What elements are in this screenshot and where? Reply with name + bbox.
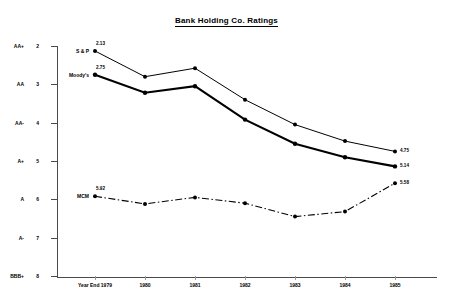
series-start-value-label: 5.92 (96, 186, 105, 191)
x-tick-mark (195, 276, 196, 280)
y-axis-grade-label: A (20, 196, 24, 202)
series-end-value-label: 5.58 (400, 180, 409, 185)
x-tick-mark (95, 276, 96, 280)
chart-container: Bank Holding Co. Ratings AA+2AA3AA-4A+5A… (0, 0, 453, 301)
x-tick-mark (395, 276, 396, 280)
data-point-marker (393, 181, 397, 185)
data-point-marker (293, 123, 297, 127)
x-tick-mark (245, 276, 246, 280)
y-axis-grade-label: AA+ (14, 43, 24, 49)
x-axis-label: Year End 1979 (78, 282, 112, 288)
x-axis-label: 1983 (289, 282, 300, 288)
y-axis-number-label: 5 (36, 158, 39, 164)
data-point-marker (243, 117, 247, 121)
data-point-marker (343, 210, 347, 214)
y-axis-grade-label: AA- (15, 120, 24, 126)
data-point-marker (143, 202, 147, 206)
data-point-marker (143, 75, 147, 79)
y-axis-number-label: 2 (36, 43, 39, 49)
x-axis-label: 1980 (139, 282, 150, 288)
x-tick-mark (145, 276, 146, 280)
data-point-marker (293, 215, 297, 219)
x-axis-label: 1982 (239, 282, 250, 288)
y-axis-grade-label: A- (19, 235, 24, 241)
data-point-marker (343, 155, 347, 159)
data-point-marker (93, 49, 97, 53)
y-tick-mark (51, 276, 57, 277)
data-point-marker (193, 84, 197, 88)
series-end-value-label: 4.75 (400, 148, 409, 153)
series-end-value-label: 5.14 (400, 163, 409, 168)
series-name-label: S & P (76, 48, 89, 54)
series-line (95, 183, 395, 216)
data-point-marker (93, 194, 97, 198)
y-axis-number-label: 3 (36, 81, 39, 87)
x-tick-mark (345, 276, 346, 280)
data-point-marker (243, 201, 247, 205)
data-point-marker (293, 142, 297, 146)
data-point-marker (393, 164, 397, 168)
series-lines (57, 46, 435, 276)
y-axis-number-label: 6 (36, 196, 39, 202)
data-point-marker (93, 73, 97, 77)
data-point-marker (143, 91, 147, 95)
data-point-marker (343, 139, 347, 143)
series-name-label: MCM (77, 193, 89, 199)
series-name-label: Moody's (69, 72, 89, 78)
y-axis-grade-label: A+ (17, 158, 24, 164)
x-axis-label: 1981 (189, 282, 200, 288)
series-start-value-label: 2.13 (96, 41, 105, 46)
y-axis-number-label: 8 (36, 273, 39, 279)
x-tick-mark (295, 276, 296, 280)
x-axis-label: 1985 (389, 282, 400, 288)
plot-area: AA+2AA3AA-4A+5A6A-7BBB+8 Year End 197919… (57, 46, 435, 276)
y-axis-number-label: 4 (36, 120, 39, 126)
data-point-marker (393, 149, 397, 153)
data-point-marker (243, 98, 247, 102)
data-point-marker (193, 195, 197, 199)
x-axis-label: 1984 (339, 282, 350, 288)
y-axis-grade-label: BBB+ (10, 273, 24, 279)
y-axis-number-label: 7 (36, 235, 39, 241)
series-start-value-label: 2.75 (96, 65, 105, 70)
y-axis-grade-label: AA (17, 81, 24, 87)
x-axis-line (57, 277, 437, 278)
data-point-marker (193, 66, 197, 70)
chart-title-text: Bank Holding Co. Ratings (175, 16, 278, 27)
chart-title: Bank Holding Co. Ratings (0, 16, 453, 25)
